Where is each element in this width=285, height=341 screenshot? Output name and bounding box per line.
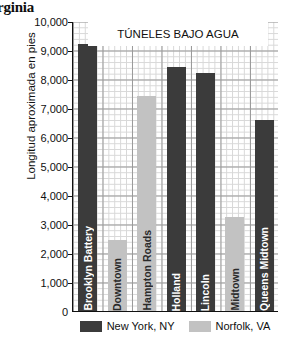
y-tick-label: 0 <box>62 307 68 318</box>
bar-label: Hampton Roads <box>141 227 153 311</box>
chart-title: TÚNELES BAJO AGUA <box>88 22 268 46</box>
y-tick-label: 6,000 <box>40 133 68 144</box>
bar-label: Downtown <box>111 255 123 311</box>
bar-label: Lincoln <box>199 271 211 311</box>
y-tick-label: 9,000 <box>40 46 68 57</box>
plot-area: Brooklyn BatteryDowntownHampton RoadsHol… <box>72 22 278 312</box>
y-tick-label: 7,000 <box>40 104 68 115</box>
y-tick-label: 8,000 <box>40 75 68 86</box>
legend-item: Norfolk, VA <box>189 320 271 332</box>
bar: Downtown <box>108 240 127 311</box>
bar-label: Midtown <box>229 265 241 311</box>
legend-label: Norfolk, VA <box>216 320 271 332</box>
y-tick-label: 10,000 <box>34 17 68 28</box>
y-axis-tick-labels: 10,0009,0008,0007,0006,0005,0004,0003,00… <box>14 0 68 341</box>
y-tick-label: 3,000 <box>40 220 68 231</box>
legend-swatch <box>189 321 211 332</box>
chart-legend: New York, NYNorfolk, VA <box>72 320 278 332</box>
y-tick-label: 5,000 <box>40 162 68 173</box>
bar: Holland <box>167 67 186 311</box>
bar: Midtown <box>225 217 244 311</box>
legend-item: New York, NY <box>80 320 175 332</box>
bar: Queens Midtown <box>255 120 274 311</box>
bar: Brooklyn Battery <box>78 44 97 311</box>
bar-label: Holland <box>170 270 182 312</box>
y-tick-label: 1,000 <box>40 278 68 289</box>
legend-label: New York, NY <box>107 320 175 332</box>
legend-swatch <box>80 321 102 332</box>
bar: Lincoln <box>196 73 215 311</box>
y-tick-label: 2,000 <box>40 249 68 260</box>
bar: Hampton Roads <box>137 96 156 311</box>
bar-label: Brooklyn Battery <box>82 223 94 311</box>
y-tick-label: 4,000 <box>40 191 68 202</box>
chart-figure: rginia Longitud aproximada en pies 10,00… <box>0 0 285 341</box>
bar-label: Queens Midtown <box>258 224 270 311</box>
bar-series-container: Brooklyn BatteryDowntownHampton RoadsHol… <box>73 22 278 311</box>
